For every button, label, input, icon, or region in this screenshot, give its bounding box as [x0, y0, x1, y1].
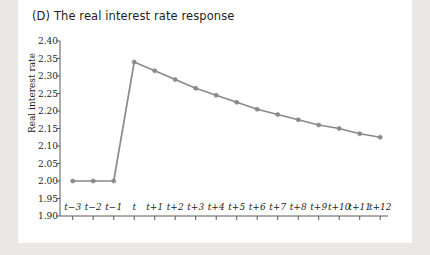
data-point-marker [71, 179, 75, 183]
data-point-marker [276, 112, 280, 116]
data-point-marker [194, 86, 198, 90]
data-point-marker [153, 69, 157, 73]
data-point-marker [112, 179, 116, 183]
data-point-marker [337, 126, 341, 130]
data-point-marker [255, 107, 259, 111]
data-point-marker [91, 179, 95, 183]
data-point-marker [214, 93, 218, 97]
data-point-marker [296, 118, 300, 122]
plot-area: 2.402.352.302.252.202.152.102.052.001.95… [18, 0, 412, 243]
series-line [73, 62, 381, 181]
line-chart-svg [18, 0, 412, 243]
chart-panel: (D) The real interest rate response Real… [18, 0, 412, 243]
data-point-marker [358, 132, 362, 136]
data-point-marker [173, 77, 177, 81]
data-point-marker [132, 60, 136, 64]
data-point-marker [378, 135, 382, 139]
data-point-marker [317, 123, 321, 127]
data-point-marker [235, 100, 239, 104]
